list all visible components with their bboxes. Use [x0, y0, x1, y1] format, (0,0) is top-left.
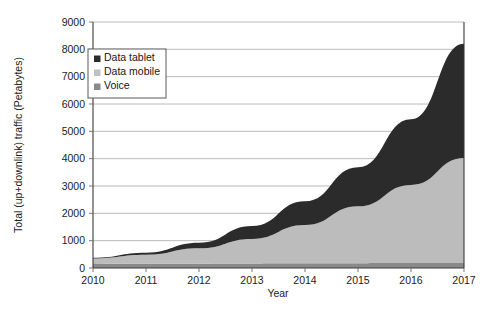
x-tick-label: 2011: [135, 274, 158, 286]
x-tick-label: 2012: [187, 274, 211, 286]
y-tick-label: 1000: [62, 234, 86, 246]
y-tick-label: 9000: [62, 16, 86, 28]
legend-swatch-icon: [94, 70, 101, 77]
chart-figure: 0100020003000400050006000700080009000 20…: [0, 0, 486, 321]
y-tick-label: 7000: [62, 70, 86, 82]
x-tick-label: 2017: [452, 274, 476, 286]
legend-label: Voice: [104, 79, 130, 91]
y-axis-title: Total (up+downlink) traffic (Petabytes): [12, 57, 24, 233]
x-tick-label: 2013: [240, 274, 264, 286]
x-tick-label: 2010: [81, 274, 105, 286]
legend-swatch-icon: [94, 84, 101, 91]
legend-label: Data tablet: [104, 51, 155, 63]
legend-swatch-icon: [94, 56, 101, 63]
y-tick-label: 5000: [62, 125, 86, 137]
legend-label: Data mobile: [104, 65, 160, 77]
y-tick-label: 4000: [62, 152, 86, 164]
chart-legend: Data tabletData mobileVoice: [88, 49, 166, 98]
y-tick-label: 8000: [62, 43, 86, 55]
x-tick-label: 2016: [399, 274, 423, 286]
y-tick-label: 2000: [62, 207, 86, 219]
y-tick-label: 6000: [62, 98, 86, 110]
stacked-area-chart: 0100020003000400050006000700080009000 20…: [0, 0, 486, 321]
x-tick-label: 2015: [346, 274, 370, 286]
x-axis-title: Year: [267, 287, 289, 299]
y-tick-label: 3000: [62, 180, 86, 192]
y-tick-label: 0: [79, 262, 85, 274]
x-tick-label: 2014: [293, 274, 317, 286]
